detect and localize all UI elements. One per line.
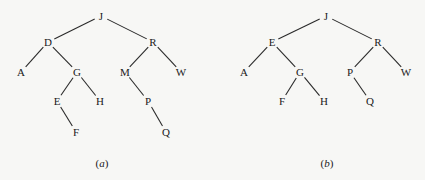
caption-b: (b)	[321, 157, 334, 170]
edge-d-g	[53, 47, 72, 67]
edge-g-e	[61, 78, 73, 95]
edge-r-w	[158, 47, 176, 67]
edge-r-w	[383, 47, 401, 67]
edge-j-d	[54, 19, 94, 39]
tree-b: JERAGPWFHQ(b)	[240, 10, 412, 170]
edge-j-e	[278, 19, 319, 39]
node-g: G	[296, 66, 304, 78]
node-q: Q	[366, 95, 374, 107]
node-h: H	[320, 95, 328, 107]
node-f: F	[73, 126, 79, 138]
caption-a: (a)	[96, 157, 109, 170]
node-w: W	[176, 66, 187, 78]
edge-e-f	[61, 107, 73, 126]
edge-g-h	[304, 77, 319, 95]
edge-j-r	[107, 19, 146, 39]
node-e: E	[269, 36, 276, 48]
node-r: R	[374, 36, 382, 48]
edge-e-a	[249, 47, 267, 67]
node-f: F	[279, 95, 285, 107]
node-a: A	[240, 66, 248, 78]
edge-p-q	[354, 78, 366, 95]
edge-r-m	[130, 47, 148, 67]
binary-tree-diagram: JDRAGMWEHPFQ(a) JERAGPWFHQ(b)	[0, 0, 425, 180]
node-q: Q	[162, 126, 170, 138]
node-h: H	[96, 95, 104, 107]
edge-g-f	[286, 78, 297, 95]
edge-d-a	[26, 47, 44, 67]
edge-m-p	[129, 77, 143, 95]
edge-r-p	[355, 47, 373, 67]
node-d: D	[44, 36, 52, 48]
node-e: E	[54, 95, 61, 107]
edge-g-h	[81, 77, 95, 95]
node-p: P	[347, 66, 353, 78]
node-m: M	[120, 66, 130, 78]
node-a: A	[17, 66, 25, 78]
tree-figure: JDRAGMWEHPFQ(a) JERAGPWFHQ(b)	[0, 0, 425, 180]
edge-j-r	[332, 19, 371, 39]
node-g: G	[73, 66, 81, 78]
node-w: W	[401, 66, 412, 78]
node-j: J	[99, 10, 104, 22]
node-r: R	[149, 36, 157, 48]
node-j: J	[324, 10, 329, 22]
node-p: P	[145, 95, 151, 107]
edge-e-g	[277, 47, 295, 67]
tree-a: JDRAGMWEHPFQ(a)	[17, 10, 187, 170]
edge-p-q	[152, 107, 163, 126]
